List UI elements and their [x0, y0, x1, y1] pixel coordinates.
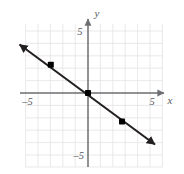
axes	[20, 19, 164, 167]
y-axis-name: y	[94, 7, 100, 19]
graph-canvas: 5 –5 –5 5 y x	[0, 0, 184, 174]
y-axis-tick-label-minus5: –5	[73, 150, 85, 161]
grid-lines	[26, 24, 163, 167]
data-point	[85, 90, 91, 96]
data-point	[119, 119, 125, 125]
data-point	[48, 62, 54, 68]
y-axis-tick-label-5: 5	[77, 26, 82, 37]
x-axis-tick-label-minus5: –5	[21, 96, 33, 107]
coordinate-plane-figure: 5 –5 –5 5 y x	[0, 0, 184, 174]
x-axis-tick-label-5: 5	[149, 96, 154, 107]
x-axis-name: x	[167, 94, 173, 106]
